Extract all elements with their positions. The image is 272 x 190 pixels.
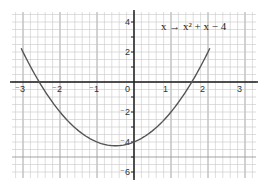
x-tick-label: 0 [125, 84, 130, 94]
x-tick-label: 2 [200, 84, 205, 94]
x-tick-label: ⁻2 [52, 84, 62, 94]
x-tick-label: ⁻3 [15, 84, 25, 94]
x-tick-label: ⁻1 [89, 84, 99, 94]
y-tick-label: 2 [125, 47, 130, 57]
x-tick-label: 3 [237, 84, 242, 94]
y-tick-label: ⁻6 [120, 167, 130, 177]
function-graph: ⁻3⁻2⁻1012342⁻2⁻4⁻6 x → x² + x − 4 [0, 0, 272, 190]
y-tick-label: ⁻2 [120, 107, 130, 117]
y-tick-label: 4 [125, 17, 130, 27]
x-tick-label: 1 [163, 84, 168, 94]
function-label: x → x² + x − 4 [161, 20, 227, 32]
